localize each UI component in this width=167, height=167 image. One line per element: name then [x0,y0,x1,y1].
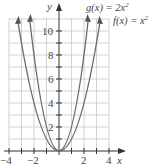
x-tick-label: 4 [106,154,112,166]
x-tick-label: 2 [81,154,87,166]
svg-text:f(x) = x2: f(x) = x2 [113,14,149,27]
y-tick-label: 4 [48,97,54,109]
parabola-chart: y x −4 −2 2 4 2 4 6 8 10 g(x) = 2x2 f(x)… [0,0,167,167]
y-axis-label: y [46,0,52,12]
svg-text:g(x) = 2x2: g(x) = 2x2 [86,1,129,14]
x-tick-label: −4 [0,154,12,166]
y-tick-label: 10 [42,25,54,37]
y-tick-label: 2 [48,121,54,133]
x-tick-label: −2 [27,154,39,166]
y-tick-label: 8 [48,49,54,61]
f-function-label: f(x) = x2 [111,14,167,27]
curve-f-arrow-left-icon [15,16,21,24]
curve-g-arrow-left-icon [27,14,33,22]
curve-g-arrow-right-icon [85,14,91,22]
g-function-label: g(x) = 2x2 [84,1,166,14]
curve-f-arrow-right-icon [97,16,103,24]
y-axis-arrow-icon [56,3,62,11]
x-axis-label: x [116,154,122,166]
y-tick-label: 6 [48,73,54,85]
